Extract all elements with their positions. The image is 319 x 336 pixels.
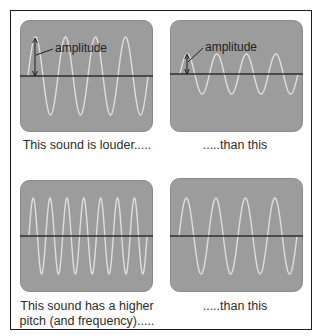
waveform-higher-pitch bbox=[20, 180, 153, 292]
caption-quieter: .....than this bbox=[160, 138, 310, 153]
amplitude-label: amplitude bbox=[205, 40, 257, 54]
oscilloscope-louder: amplitude bbox=[20, 20, 153, 132]
waveform-louder: amplitude bbox=[20, 20, 153, 132]
waveform-lower-pitch bbox=[170, 178, 303, 292]
caption-higher-pitch: This sound has a higher pitch (and frequ… bbox=[12, 299, 162, 329]
amplitude-label: amplitude bbox=[55, 41, 107, 55]
oscilloscope-quieter: amplitude bbox=[170, 20, 303, 132]
caption-lower-pitch: .....than this bbox=[160, 299, 310, 314]
oscilloscope-lower-pitch bbox=[170, 178, 303, 290]
caption-line-1: This sound has a higher bbox=[12, 299, 162, 314]
oscilloscope-higher-pitch bbox=[20, 180, 153, 292]
waveform-quieter: amplitude bbox=[170, 20, 303, 132]
caption-line-2: pitch (and frequency)..... bbox=[12, 314, 162, 329]
caption-louder: This sound is louder..... bbox=[12, 138, 162, 153]
